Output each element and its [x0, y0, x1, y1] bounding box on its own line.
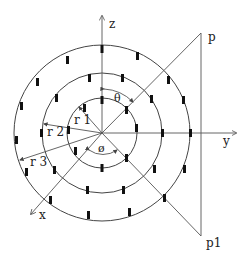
y-axis-label: y [222, 134, 230, 148]
element [36, 78, 39, 86]
diagram-canvas: z y x p p1 r 1 r 2 r 3 θ ø [0, 0, 247, 262]
point-p1-label: p1 [206, 236, 221, 250]
element [88, 74, 91, 82]
element [121, 74, 124, 82]
line-to-p1 [102, 133, 201, 236]
element [167, 76, 170, 84]
element [122, 186, 125, 194]
element [125, 154, 128, 162]
spherical-array-diagram: z y x p p1 r 1 r 2 r 3 θ ø [0, 0, 247, 262]
theta-label: θ [114, 92, 121, 105]
line-to-p [102, 33, 201, 133]
element [15, 136, 18, 144]
element [53, 166, 56, 174]
element [87, 211, 90, 219]
element [161, 129, 164, 137]
x-axis-label: x [39, 208, 46, 222]
element [136, 52, 139, 60]
z-axis-label: z [109, 17, 115, 31]
element [67, 126, 70, 134]
element [49, 196, 52, 204]
element [101, 164, 104, 172]
r2-label: r 2 [47, 125, 64, 139]
element [101, 45, 104, 53]
element [25, 168, 28, 176]
element [20, 102, 23, 110]
element [125, 106, 128, 114]
element [182, 96, 185, 104]
element [189, 129, 192, 137]
element [135, 124, 138, 132]
element [128, 208, 131, 216]
r1-label: r 1 [74, 113, 91, 127]
element [66, 56, 69, 64]
element [40, 129, 43, 137]
element [86, 186, 89, 194]
element [153, 165, 156, 173]
element [183, 165, 186, 173]
element [163, 194, 166, 202]
point-p-label: p [208, 30, 216, 44]
element [74, 147, 77, 155]
element [83, 104, 86, 112]
element [101, 96, 104, 104]
element [55, 94, 58, 102]
r3-label: r 3 [30, 155, 47, 169]
element [150, 95, 153, 103]
phi-label: ø [98, 142, 105, 155]
